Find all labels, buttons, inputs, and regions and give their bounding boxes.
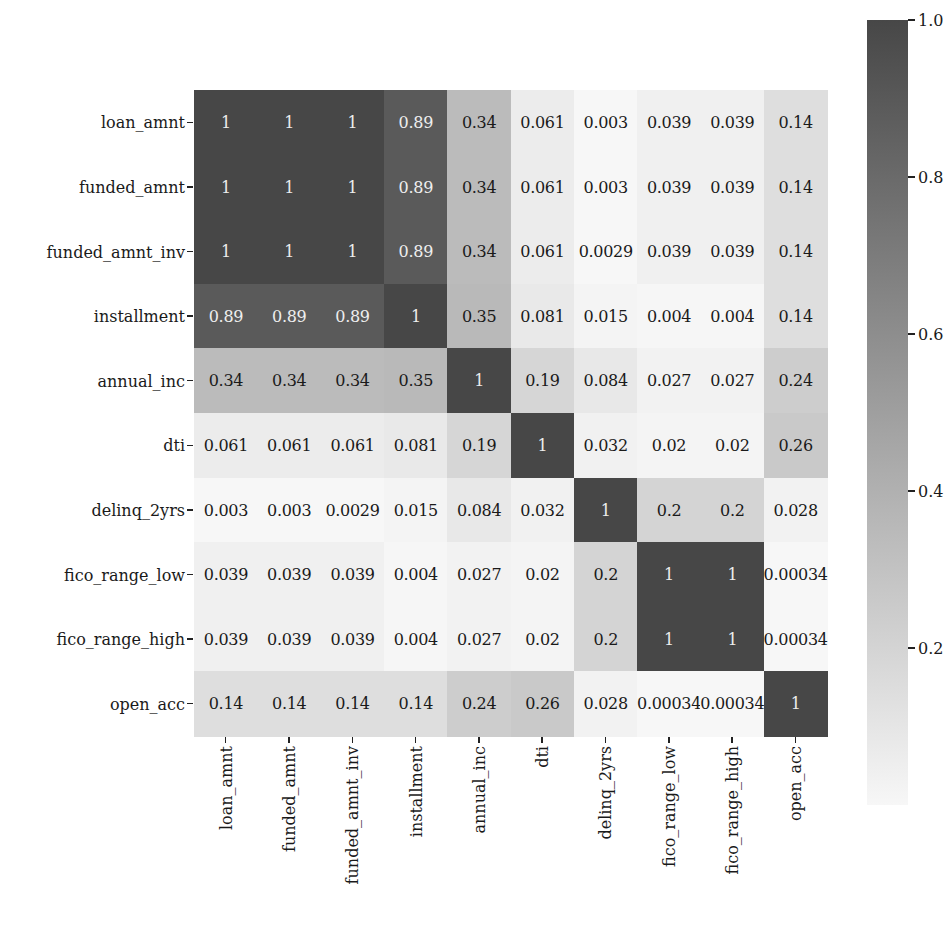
heatmap-cell: 0.34	[257, 348, 321, 413]
colorbar-tick-mark	[908, 176, 915, 178]
cell-value: 0.061	[520, 178, 564, 197]
heatmap-cell: 0.039	[257, 607, 321, 672]
cell-value: 0.004	[394, 565, 438, 584]
y-tick-mark	[187, 186, 193, 188]
y-tick-mark	[187, 638, 193, 640]
x-tick-mark	[352, 737, 354, 743]
y-axis-label: funded_amnt_inv	[47, 242, 185, 261]
heatmap-cell: 0.003	[574, 90, 638, 155]
cell-value: 0.039	[710, 113, 754, 132]
x-axis-label: loan_amnt	[216, 746, 235, 830]
cell-value: 0.19	[462, 436, 496, 455]
cell-value: 0.027	[710, 371, 754, 390]
x-axis-label: fico_range_low	[659, 746, 678, 867]
heatmap-cell: 0.032	[574, 413, 638, 478]
heatmap-cell: 1	[194, 90, 258, 155]
y-axis-label: dti	[163, 436, 185, 455]
cell-value: 1	[348, 242, 358, 261]
heatmap-cell: 0.34	[321, 348, 385, 413]
heatmap-cell: 0.039	[321, 542, 385, 607]
colorbar-tick-mark	[908, 333, 915, 335]
heatmap-cell: 1	[574, 478, 638, 543]
heatmap-cell: 0.14	[764, 219, 828, 284]
heatmap-cell: 0.084	[574, 348, 638, 413]
cell-value: 0.004	[710, 307, 754, 326]
cell-value: 0.00034	[637, 694, 701, 713]
heatmap-cell: 0.2	[574, 542, 638, 607]
cell-value: 0.89	[272, 307, 306, 326]
heatmap-cell: 0.00034	[764, 542, 828, 607]
correlation-heatmap-chart: 1110.890.340.0610.0030.0390.0390.141110.…	[0, 0, 952, 933]
heatmap-cell: 0.003	[194, 478, 258, 543]
heatmap-cell: 0.0029	[321, 478, 385, 543]
heatmap-cell: 0.14	[764, 90, 828, 155]
cell-value: 1	[727, 630, 737, 649]
y-axis-label: delinq_2yrs	[91, 500, 185, 519]
heatmap-cell: 0.061	[257, 413, 321, 478]
cell-value: 0.24	[462, 694, 496, 713]
y-axis-label: annual_inc	[98, 371, 186, 390]
heatmap-cell: 1	[321, 155, 385, 220]
heatmap-cell: 1	[257, 90, 321, 155]
cell-value: 0.2	[593, 565, 618, 584]
heatmap-cell: 0.039	[321, 607, 385, 672]
cell-value: 0.015	[584, 307, 628, 326]
heatmap-cell: 0.015	[384, 478, 448, 543]
cell-value: 0.004	[647, 307, 691, 326]
heatmap-cell: 0.061	[194, 413, 258, 478]
heatmap-cell: 0.24	[764, 348, 828, 413]
heatmap-cell: 0.027	[700, 348, 764, 413]
x-axis-label: funded_amnt	[279, 746, 298, 852]
x-axis-label: open_acc	[786, 746, 805, 821]
heatmap-cell: 0.34	[447, 219, 511, 284]
heatmap-cell: 0.14	[384, 671, 448, 736]
cell-value: 1	[284, 113, 294, 132]
heatmap-cell: 0.028	[574, 671, 638, 736]
cell-value: 0.02	[525, 630, 559, 649]
heatmap-cell: 0.004	[700, 284, 764, 349]
heatmap-cell: 0.004	[637, 284, 701, 349]
cell-value: 1	[474, 371, 484, 390]
cell-value: 1	[727, 565, 737, 584]
cell-value: 0.027	[647, 371, 691, 390]
colorbar-tick-mark	[908, 19, 915, 21]
cell-value: 0.061	[267, 436, 311, 455]
cell-value: 0.027	[457, 630, 501, 649]
cell-value: 0.039	[330, 565, 374, 584]
y-tick-mark	[187, 315, 193, 317]
colorbar-tick-label: 0.8	[918, 168, 943, 187]
heatmap-cell: 0.039	[700, 90, 764, 155]
cell-value: 0.02	[525, 565, 559, 584]
cell-value: 0.084	[457, 501, 501, 520]
heatmap-cell: 0.061	[511, 90, 575, 155]
heatmap-cell: 0.02	[700, 413, 764, 478]
x-axis-label: dti	[533, 746, 552, 768]
cell-value: 1	[601, 501, 611, 520]
heatmap-cell: 1	[321, 90, 385, 155]
cell-value: 0.039	[204, 630, 248, 649]
heatmap-cell: 1	[194, 155, 258, 220]
x-axis-label: fico_range_high	[723, 746, 742, 874]
cell-value: 0.02	[652, 436, 686, 455]
cell-value: 0.14	[778, 113, 812, 132]
colorbar-tick-label: 0.4	[918, 482, 943, 501]
cell-value: 0.028	[773, 501, 817, 520]
heatmap-cell: 1	[764, 671, 828, 736]
cell-value: 0.02	[715, 436, 749, 455]
heatmap-cell: 0.00034	[764, 607, 828, 672]
cell-value: 0.039	[267, 565, 311, 584]
heatmap-cell: 0.2	[637, 478, 701, 543]
heatmap-cell: 1	[257, 219, 321, 284]
heatmap-cell: 1	[700, 607, 764, 672]
cell-value: 0.003	[584, 113, 628, 132]
heatmap-cell: 1	[384, 284, 448, 349]
colorbar-tick-mark	[908, 490, 915, 492]
heatmap-cell: 0.084	[447, 478, 511, 543]
cell-value: 0.34	[272, 371, 306, 390]
heatmap-cell: 0.061	[511, 219, 575, 284]
cell-value: 1	[411, 307, 421, 326]
y-tick-mark	[187, 703, 193, 705]
heatmap-cell: 0.0029	[574, 219, 638, 284]
heatmap-cell: 1	[637, 542, 701, 607]
y-tick-mark	[187, 574, 193, 576]
